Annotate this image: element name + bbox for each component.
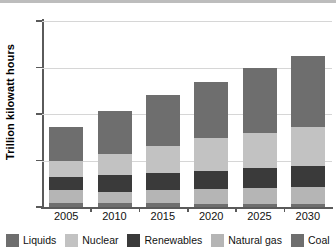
x-tick-mark bbox=[235, 207, 237, 212]
bar-segment-renewables[interactable] bbox=[291, 166, 325, 187]
bar-segment-nuclear[interactable] bbox=[49, 161, 83, 178]
bar-segment-natural-gas[interactable] bbox=[49, 190, 83, 203]
y-axis-title-wrap: Trillion kilowatt hours bbox=[0, 0, 20, 207]
top-rule bbox=[0, 0, 336, 3]
bar-segment-nuclear[interactable] bbox=[194, 138, 228, 171]
x-tick-label: 2030 bbox=[278, 210, 336, 222]
bar-2020[interactable] bbox=[194, 82, 228, 207]
legend-item-nuclear[interactable]: Nuclear bbox=[65, 234, 118, 247]
bar-segment-natural-gas[interactable] bbox=[98, 192, 132, 203]
bar-segment-natural-gas[interactable] bbox=[243, 188, 277, 204]
bar-segment-renewables[interactable] bbox=[194, 171, 228, 190]
plot-area bbox=[42, 21, 332, 207]
bar-segment-liquids[interactable] bbox=[49, 203, 83, 207]
bar-segment-renewables[interactable] bbox=[146, 173, 180, 191]
bar-segment-liquids[interactable] bbox=[98, 203, 132, 207]
bar-2010[interactable] bbox=[98, 111, 132, 207]
bar-segment-renewables[interactable] bbox=[98, 175, 132, 192]
legend-swatch bbox=[211, 234, 224, 247]
bar-segment-renewables[interactable] bbox=[49, 177, 83, 190]
bar-segment-liquids[interactable] bbox=[243, 204, 277, 207]
gridline bbox=[42, 114, 332, 115]
bar-segment-renewables[interactable] bbox=[243, 168, 277, 188]
legend-swatch bbox=[65, 234, 78, 247]
legend-label: Liquids bbox=[23, 234, 56, 247]
bar-2030[interactable] bbox=[291, 56, 325, 207]
bar-segment-natural-gas[interactable] bbox=[146, 190, 180, 203]
x-tick-mark bbox=[139, 207, 141, 212]
bar-segment-nuclear[interactable] bbox=[243, 133, 277, 168]
legend-item-renewables[interactable]: Renewables bbox=[127, 234, 202, 247]
bar-segment-liquids[interactable] bbox=[291, 204, 325, 207]
bar-segment-nuclear[interactable] bbox=[146, 146, 180, 173]
legend-item-natural-gas[interactable]: Natural gas bbox=[211, 234, 282, 247]
gridline bbox=[42, 68, 332, 69]
bar-segment-coal[interactable] bbox=[291, 56, 325, 127]
bar-segment-coal[interactable] bbox=[98, 111, 132, 154]
legend-label: Nuclear bbox=[82, 234, 118, 247]
stacked-bar-chart: Trillion kilowatt hours 403020100 200520… bbox=[0, 0, 336, 251]
legend-label: Coal bbox=[308, 234, 330, 247]
legend-label: Natural gas bbox=[228, 234, 282, 247]
legend-swatch bbox=[127, 234, 140, 247]
bar-segment-coal[interactable] bbox=[243, 68, 277, 132]
x-tick-mark bbox=[90, 207, 92, 212]
legend-swatch bbox=[291, 234, 304, 247]
legend-label: Renewables bbox=[144, 234, 202, 247]
gridline bbox=[42, 21, 332, 22]
bar-segment-coal[interactable] bbox=[194, 82, 228, 137]
x-tick-mark bbox=[284, 207, 286, 212]
bar-segment-natural-gas[interactable] bbox=[291, 187, 325, 204]
bar-2005[interactable] bbox=[49, 127, 83, 207]
legend-swatch bbox=[6, 234, 19, 247]
y-axis-title: Trillion kilowatt hours bbox=[4, 12, 16, 192]
x-tick-mark bbox=[187, 207, 189, 212]
legend-item-liquids[interactable]: Liquids bbox=[6, 234, 56, 247]
bar-segment-liquids[interactable] bbox=[146, 203, 180, 207]
bar-2015[interactable] bbox=[146, 95, 180, 208]
bar-segment-liquids[interactable] bbox=[194, 204, 228, 207]
bar-segment-nuclear[interactable] bbox=[291, 127, 325, 166]
bar-segment-coal[interactable] bbox=[146, 95, 180, 147]
bar-segment-natural-gas[interactable] bbox=[194, 189, 228, 203]
bar-2025[interactable] bbox=[243, 68, 277, 207]
bar-segment-coal[interactable] bbox=[49, 127, 83, 160]
legend-item-coal[interactable]: Coal bbox=[291, 234, 330, 247]
bar-segment-nuclear[interactable] bbox=[98, 154, 132, 175]
gridline bbox=[42, 161, 332, 162]
chart-legend: LiquidsNuclearRenewablesNatural gasCoal bbox=[0, 230, 336, 251]
